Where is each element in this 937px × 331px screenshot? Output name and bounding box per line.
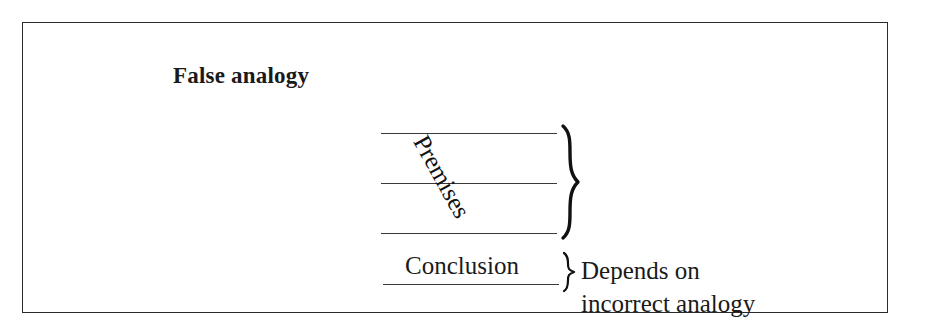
annotation-line-1: Depends on <box>581 254 755 287</box>
premise-rule <box>381 183 557 184</box>
annotation-note: Depends on incorrect analogy <box>581 254 755 320</box>
premise-rule <box>381 233 557 234</box>
premises-brace-icon <box>557 123 587 241</box>
figure-frame: False analogy Premises Conclusion Depend… <box>22 22 888 313</box>
premises-group: Premises <box>381 127 557 237</box>
conclusion-rule <box>383 284 559 285</box>
premise-rule <box>381 133 557 134</box>
annotation-line-2: incorrect analogy <box>581 287 755 320</box>
premises-label: Premises <box>409 131 475 222</box>
conclusion-brace-icon <box>559 251 581 293</box>
conclusion-label: Conclusion <box>405 253 519 278</box>
conclusion-group: Conclusion <box>383 253 559 287</box>
page-title: False analogy <box>173 64 309 87</box>
